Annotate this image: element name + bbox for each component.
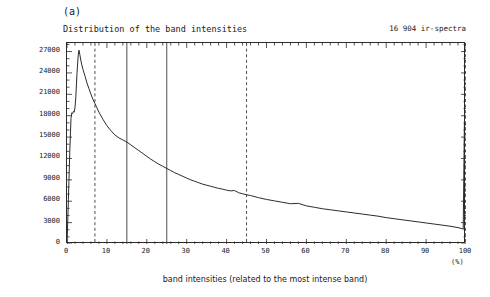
x-axis-unit: (%) bbox=[451, 258, 464, 266]
y-tick-label: 15000 bbox=[2, 132, 60, 139]
x-axis-title-text: band intensities (related to the most in… bbox=[123, 275, 368, 284]
distribution-line-chart bbox=[67, 43, 466, 244]
x-tick-label: 40 bbox=[206, 247, 246, 255]
y-tick-label: 18000 bbox=[2, 111, 60, 118]
plot-area bbox=[66, 42, 465, 243]
y-tick-label: 6000 bbox=[2, 196, 60, 203]
x-tick-label: 50 bbox=[246, 247, 286, 255]
y-tick-label: 24000 bbox=[2, 68, 60, 75]
x-tick-label: 100 bbox=[445, 247, 485, 255]
chart-title: Distribution of the band intensities bbox=[63, 24, 247, 34]
x-tick-label: 20 bbox=[126, 247, 166, 255]
x-tick-label: 60 bbox=[285, 247, 325, 255]
x-axis-title: band intensities (related to the most in… bbox=[0, 275, 490, 284]
y-tick-label: 3000 bbox=[2, 218, 60, 225]
y-tick-label: 12000 bbox=[2, 153, 60, 160]
y-tick-label: 27000 bbox=[2, 47, 60, 54]
panel-label: (a) bbox=[63, 6, 81, 17]
x-tick-label: 70 bbox=[325, 247, 365, 255]
x-tick-label: 10 bbox=[86, 247, 126, 255]
x-tick-label: 90 bbox=[405, 247, 445, 255]
y-tick-label: 0 bbox=[2, 239, 60, 246]
x-tick-label: 30 bbox=[166, 247, 206, 255]
y-tick-label: 21000 bbox=[2, 89, 60, 96]
spectra-count-note: 16 904 ir-spectra bbox=[389, 24, 466, 33]
x-tick-label: 0 bbox=[46, 247, 86, 255]
x-tick-label: 80 bbox=[365, 247, 405, 255]
y-tick-label: 9000 bbox=[2, 175, 60, 182]
